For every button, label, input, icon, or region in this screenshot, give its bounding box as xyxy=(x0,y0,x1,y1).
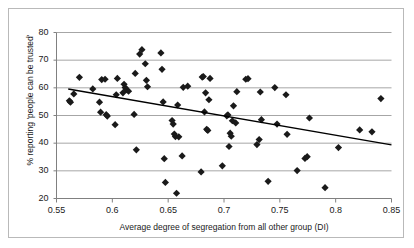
data-point xyxy=(142,60,149,67)
data-point xyxy=(321,184,328,191)
data-point xyxy=(162,179,169,186)
data-point xyxy=(161,155,168,162)
data-point xyxy=(377,95,384,102)
x-tick-label: 0.6 xyxy=(92,206,132,215)
data-point xyxy=(335,144,342,151)
data-point xyxy=(157,49,164,56)
gridlines xyxy=(57,33,392,171)
x-axis-title: Average degree of segregation from all o… xyxy=(56,222,392,232)
scatter-chart: 80706050403020 0.550.60.650.70.750.80.85… xyxy=(0,0,414,248)
x-tick-label: 0.85 xyxy=(372,206,412,215)
data-point xyxy=(76,74,83,81)
x-tick-label: 0.65 xyxy=(148,206,188,215)
data-point xyxy=(158,66,165,73)
data-point xyxy=(198,168,205,175)
data-point xyxy=(133,146,140,153)
data-point xyxy=(356,126,363,133)
data-point xyxy=(368,128,375,135)
data-point xyxy=(202,89,209,96)
data-point xyxy=(143,77,150,84)
x-tick-label: 0.75 xyxy=(260,206,300,215)
data-point xyxy=(131,111,138,118)
data-point xyxy=(112,121,119,128)
data-point xyxy=(233,88,240,95)
data-point xyxy=(271,84,278,91)
data-point xyxy=(283,131,290,138)
data-point xyxy=(144,83,151,90)
data-point xyxy=(294,167,301,174)
data-point xyxy=(205,96,212,103)
data-point xyxy=(89,85,96,92)
x-tick-marks xyxy=(57,199,392,203)
data-point xyxy=(282,91,289,98)
data-point xyxy=(173,190,180,197)
data-point xyxy=(225,143,232,150)
data-point xyxy=(114,75,121,82)
x-tick-label: 0.55 xyxy=(37,206,77,215)
data-point xyxy=(265,178,272,185)
data-point xyxy=(219,162,226,169)
data-point xyxy=(96,99,103,106)
data-point xyxy=(230,102,237,109)
x-tick-label: 0.8 xyxy=(316,206,356,215)
data-point xyxy=(70,90,77,97)
data-points xyxy=(66,46,385,197)
y-tick-label: 20 xyxy=(27,194,49,203)
data-point xyxy=(257,88,264,95)
y-axis-title: % reporting 'people can be trusted' xyxy=(25,10,35,190)
data-point xyxy=(179,152,186,159)
data-point xyxy=(206,75,213,82)
x-tick-label: 0.7 xyxy=(204,206,244,215)
data-point xyxy=(132,70,139,77)
